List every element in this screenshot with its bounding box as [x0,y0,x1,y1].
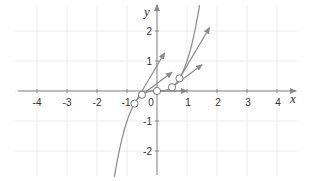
x-tick-label: 4 [275,97,281,108]
x-tick-label: -1 [122,97,131,108]
sample-point-marker [138,91,145,98]
y-axis-label: y [142,4,150,19]
tangent-arrow [182,28,210,75]
x-tick-label: 2 [215,97,221,108]
sample-point-marker [176,75,183,82]
y-tick-label: -2 [143,146,152,157]
x-tick-label: -3 [63,97,72,108]
x-tick-label: 0 [148,97,154,108]
x-tick-label: -2 [93,97,102,108]
y-tick-label: 1 [146,56,152,67]
sample-point-marker [168,84,175,91]
sample-point-marker [131,100,138,107]
x-axis-label: x [289,91,296,106]
y-tick-label: 2 [146,26,152,37]
sample-point-marker [153,87,160,94]
y-tick-label: -1 [143,116,152,127]
x-tick-label: 3 [245,97,251,108]
cubic-function-plot: -4 -3 -2 -1 0 1 2 3 4 2 1 -1 -2 x y [0,0,311,181]
x-tick-label: -4 [33,97,42,108]
x-tick-label: 1 [185,97,191,108]
